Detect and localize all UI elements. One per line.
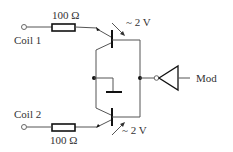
resistor-1 bbox=[52, 24, 75, 31]
coil2-terminal bbox=[22, 125, 27, 130]
voltage-label-1: ~ 2 V bbox=[126, 16, 151, 28]
coil2-label: Coil 2 bbox=[14, 108, 41, 120]
output-label: Mod bbox=[196, 72, 217, 84]
resistor-1-label: 100 Ω bbox=[52, 9, 79, 21]
resistor-2-label: 100 Ω bbox=[50, 134, 77, 146]
wire bbox=[75, 27, 97, 28]
circuit-diagram: ~ 2 V Mod ~ 2 V 100 Ω Coil 1 Coil 2 100 … bbox=[0, 0, 233, 152]
coil1-label: Coil 1 bbox=[14, 34, 41, 46]
resistor-2 bbox=[52, 124, 75, 131]
wire bbox=[96, 43, 111, 50]
voltage-label-2: ~ 2 V bbox=[122, 124, 147, 136]
coil1-terminal bbox=[22, 25, 27, 30]
buffer-triangle-icon bbox=[159, 66, 178, 90]
wire bbox=[96, 108, 111, 115]
